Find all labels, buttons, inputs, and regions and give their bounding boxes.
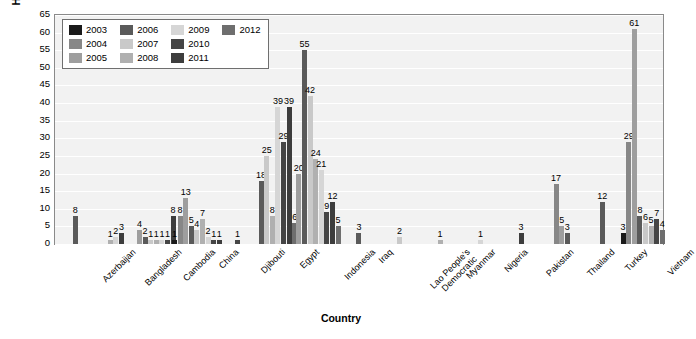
bar-value-label: 1 bbox=[172, 230, 177, 239]
bar-value-label: 6 bbox=[643, 213, 648, 222]
x-tick-label: Cambodia bbox=[181, 247, 217, 283]
bar: 18 bbox=[259, 181, 264, 244]
bar: 42 bbox=[308, 96, 313, 244]
y-tick-label: 65 bbox=[4, 9, 50, 19]
bar: 61 bbox=[632, 29, 637, 244]
bar-value-label: 12 bbox=[327, 192, 337, 201]
legend-label: 2005 bbox=[86, 53, 107, 63]
x-tick-label: Bangladesh bbox=[143, 247, 184, 288]
legend-swatch bbox=[171, 25, 184, 35]
x-axis-title: Country bbox=[0, 312, 682, 324]
legend-swatch bbox=[222, 25, 235, 35]
bar-group: 12 bbox=[582, 15, 623, 244]
x-tick-label: Djibouti bbox=[259, 247, 287, 275]
x-tick-label: China bbox=[217, 247, 241, 271]
bar-value-label: 7 bbox=[200, 209, 205, 218]
bar-value-label: 13 bbox=[181, 188, 191, 197]
x-tick-label: Azerbaijan bbox=[101, 247, 138, 284]
bar-group: 3 bbox=[501, 15, 542, 244]
bar-value-label: 1 bbox=[165, 230, 170, 239]
y-tick-label: 0 bbox=[4, 238, 50, 248]
legend-item-2007: 2007 bbox=[120, 38, 158, 50]
x-tick-label: Pakistan bbox=[544, 247, 575, 278]
bar-group: 2 bbox=[379, 15, 420, 244]
bar-value-label: 4 bbox=[660, 220, 665, 229]
bar: 7 bbox=[200, 219, 205, 244]
y-tick-label: 10 bbox=[4, 203, 50, 213]
legend-label: 2008 bbox=[137, 53, 158, 63]
legend-item-2003: 2003 bbox=[69, 24, 107, 36]
y-tick-label: 15 bbox=[4, 185, 50, 195]
bar: 2 bbox=[143, 237, 148, 244]
bar-value-label: 4 bbox=[137, 220, 142, 229]
bar: 1 bbox=[165, 240, 170, 244]
bar: 25 bbox=[264, 156, 269, 244]
bar: 9 bbox=[324, 212, 329, 244]
bar: 1 bbox=[478, 240, 483, 244]
legend-item-2009: 2009 bbox=[171, 24, 209, 36]
bar-value-label: 2 bbox=[143, 227, 148, 236]
bar: 24 bbox=[313, 159, 318, 244]
x-tick-label: Indonesia bbox=[343, 247, 378, 282]
bar: 1 bbox=[108, 240, 113, 244]
gridline bbox=[55, 244, 663, 245]
bar-value-label: 61 bbox=[629, 19, 639, 28]
y-tick-label: 20 bbox=[4, 168, 50, 178]
bar: 1 bbox=[148, 240, 153, 244]
bar: 29 bbox=[281, 142, 286, 244]
bar-value-label: 9 bbox=[324, 202, 329, 211]
x-tick-label: Vietnam bbox=[665, 247, 695, 277]
legend-swatch bbox=[120, 25, 133, 35]
bar: 8 bbox=[270, 216, 275, 244]
bar-value-label: 7 bbox=[654, 209, 659, 218]
legend-label: 2007 bbox=[137, 39, 158, 49]
bar-value-label: 2 bbox=[113, 227, 118, 236]
bar: 8 bbox=[178, 216, 183, 244]
y-tick-label: 5 bbox=[4, 220, 50, 230]
x-tick-label: Turkey bbox=[623, 247, 649, 273]
legend: 2003200620092012200420072010200520082011 bbox=[62, 19, 269, 69]
legend-label: 2006 bbox=[137, 25, 158, 35]
legend-swatch bbox=[120, 39, 133, 49]
x-tick-label: Thailand bbox=[585, 247, 616, 278]
y-tick-label: 50 bbox=[4, 62, 50, 72]
bar: 13 bbox=[183, 198, 188, 244]
bar: 2 bbox=[206, 237, 211, 244]
bar: 2 bbox=[113, 237, 118, 244]
x-tick-label: Egypt bbox=[298, 247, 321, 270]
bar: 2 bbox=[397, 237, 402, 244]
bar: 8 bbox=[637, 216, 642, 244]
bar: 5 bbox=[649, 226, 654, 244]
bar: 1 bbox=[159, 240, 164, 244]
legend-item-empty bbox=[222, 38, 260, 50]
bar: 3 bbox=[119, 233, 124, 244]
bar: 8 bbox=[73, 216, 78, 244]
bar: 6 bbox=[643, 223, 648, 244]
bar: 39 bbox=[287, 107, 292, 244]
bar-value-label: 1 bbox=[478, 230, 483, 239]
bar: 20 bbox=[296, 174, 301, 244]
y-tick-label: 45 bbox=[4, 79, 50, 89]
legend-label: 2012 bbox=[239, 25, 260, 35]
legend-item-empty bbox=[222, 52, 260, 64]
legend-swatch bbox=[69, 39, 82, 49]
bar: 1 bbox=[235, 240, 240, 244]
bar-value-label: 3 bbox=[119, 223, 124, 232]
bar: 4 bbox=[660, 230, 665, 244]
bar: 5 bbox=[189, 226, 194, 244]
legend-swatch bbox=[120, 53, 133, 63]
bar-value-label: 1 bbox=[438, 230, 443, 239]
bar: 3 bbox=[621, 233, 626, 244]
legend-item-2011: 2011 bbox=[171, 52, 209, 64]
bar-value-label: 39 bbox=[284, 97, 294, 106]
bar: 1 bbox=[438, 240, 443, 244]
bar-group: 1 bbox=[460, 15, 501, 244]
bar: 5 bbox=[559, 226, 564, 244]
y-tick-label: 35 bbox=[4, 115, 50, 125]
legend-label: 2010 bbox=[188, 39, 209, 49]
bar-group: 1 bbox=[420, 15, 461, 244]
bar-value-label: 24 bbox=[311, 149, 321, 158]
bar-value-label: 1 bbox=[108, 230, 113, 239]
legend-label: 2009 bbox=[188, 25, 209, 35]
